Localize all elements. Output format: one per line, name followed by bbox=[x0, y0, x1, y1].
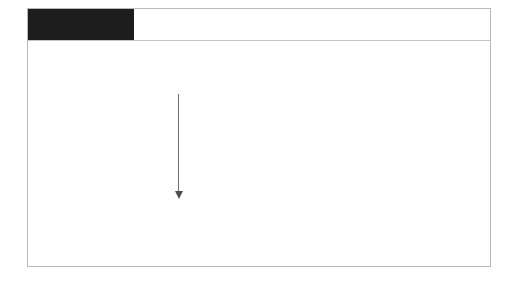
figure-number-badge bbox=[28, 9, 134, 40]
figure-header bbox=[28, 9, 490, 40]
partnership-fiscal-year-axis bbox=[37, 88, 458, 101]
partners-calendar-year-axis bbox=[137, 199, 458, 212]
diagram-plot-area bbox=[28, 41, 490, 266]
figure-title bbox=[134, 9, 490, 40]
figure-frame bbox=[27, 8, 491, 267]
deferral-arrow-head-icon bbox=[175, 191, 183, 199]
deferral-arrow-shaft bbox=[178, 94, 179, 194]
